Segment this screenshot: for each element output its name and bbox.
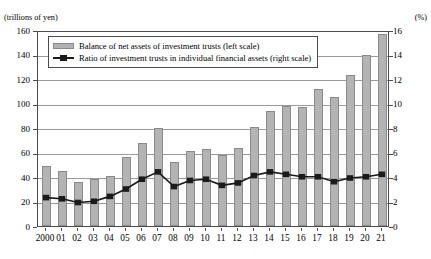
- left-tick-20: 20: [4, 198, 30, 207]
- left-tick-80: 80: [4, 125, 30, 134]
- right-axis-unit-label: (%): [415, 13, 427, 22]
- line-marker-13: [251, 173, 257, 179]
- x-tickmark-14: [269, 228, 270, 231]
- line-marker-07: [155, 169, 161, 175]
- line-marker-09: [187, 178, 193, 184]
- x-tickmark-07: [157, 228, 158, 231]
- x-tickmark-09: [189, 228, 190, 231]
- line-marker-15: [283, 172, 289, 178]
- line-marker-04: [107, 194, 113, 200]
- x-tickmark-19: [349, 228, 350, 231]
- right-tick-2: 2: [393, 198, 419, 207]
- x-tickmark-11: [221, 228, 222, 231]
- x-tickmark-15: [285, 228, 286, 231]
- x-tickmark-06: [141, 228, 142, 231]
- legend-item-line: Ratio of investment trusts in individual…: [53, 52, 311, 64]
- x-tickmark-16: [301, 228, 302, 231]
- left-tick-160: 160: [4, 27, 30, 36]
- left-tick-40: 40: [4, 174, 30, 183]
- line-marker-18: [331, 179, 337, 185]
- line-markers: [43, 169, 385, 205]
- right-tick-12: 12: [393, 76, 419, 85]
- right-tick-0: 0: [393, 223, 419, 232]
- line-marker-14: [267, 169, 273, 175]
- chart-container: (trillions of yen) (%) 02040608010012014…: [0, 0, 431, 259]
- legend-label-line: Ratio of investment trusts in individual…: [79, 53, 311, 63]
- line-marker-21: [379, 172, 385, 178]
- x-tickmark-03: [93, 228, 94, 231]
- line-marker-02: [75, 200, 81, 206]
- x-tickmark-17: [317, 228, 318, 231]
- right-tick-16: 16: [393, 27, 419, 36]
- line-path: [46, 172, 382, 203]
- x-tickmark-10: [205, 228, 206, 231]
- x-tickmark-04: [109, 228, 110, 231]
- x-label-21: 21: [367, 233, 395, 244]
- line-marker-19: [347, 175, 353, 181]
- x-tickmark-20: [365, 228, 366, 231]
- x-tickmark-02: [77, 228, 78, 231]
- line-marker-16: [299, 174, 305, 180]
- line-marker-2000: [43, 195, 49, 201]
- bar-swatch-icon: [53, 43, 74, 49]
- legend-label-bars: Balance of net assets of investment trus…: [79, 41, 259, 51]
- left-tick-0: 0: [4, 223, 30, 232]
- x-tickmark-13: [253, 228, 254, 231]
- line-marker-12: [235, 180, 241, 186]
- left-tick-100: 100: [4, 100, 30, 109]
- right-tick-10: 10: [393, 100, 419, 109]
- left-tick-140: 140: [4, 51, 30, 60]
- legend-item-bars: Balance of net assets of investment trus…: [53, 40, 311, 52]
- right-tickmark-0: [389, 227, 393, 228]
- x-tickmark-12: [237, 228, 238, 231]
- x-tickmark-18: [333, 228, 334, 231]
- right-tick-14: 14: [393, 51, 419, 60]
- right-tick-6: 6: [393, 149, 419, 158]
- x-tickmark-08: [173, 228, 174, 231]
- x-tickmark-01: [61, 228, 62, 231]
- line-marker-20: [363, 174, 369, 180]
- x-tickmark-2000: [45, 228, 46, 231]
- right-tick-4: 4: [393, 174, 419, 183]
- line-marker-11: [219, 183, 225, 189]
- right-tick-8: 8: [393, 125, 419, 134]
- line-square-marker-icon: [53, 54, 74, 62]
- left-axis-unit-label: (trillions of yen): [4, 13, 58, 22]
- line-marker-01: [59, 196, 65, 202]
- x-tickmark-21: [381, 228, 382, 231]
- line-marker-05: [123, 186, 129, 192]
- x-tickmark-05: [125, 228, 126, 231]
- left-tick-120: 120: [4, 76, 30, 85]
- line-marker-10: [203, 176, 209, 182]
- line-marker-03: [91, 198, 97, 204]
- line-marker-17: [315, 174, 321, 180]
- line-marker-08: [171, 184, 177, 190]
- line-marker-06: [139, 176, 145, 182]
- left-tickmark-0: [33, 227, 37, 228]
- left-tick-60: 60: [4, 149, 30, 158]
- chart-legend: Balance of net assets of investment trus…: [48, 36, 318, 68]
